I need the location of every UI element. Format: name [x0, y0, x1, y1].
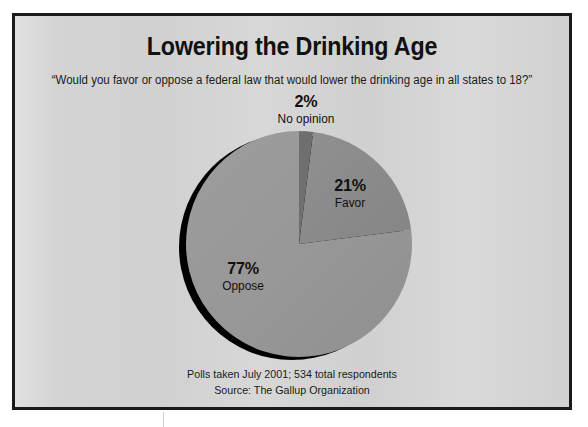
pie-chart: 2% No opinion 21% Favor 77% Oppose	[15, 16, 569, 407]
slice-label-oppose: 77% Oppose	[185, 259, 301, 294]
slice-name-no-opinion: No opinion	[237, 112, 376, 127]
slice-pct-oppose: 77%	[188, 259, 298, 279]
slice-label-favor: 21% Favor	[292, 176, 408, 211]
footnote-line-source: Source: The Gallup Organization	[34, 383, 549, 399]
slice-pct-no-opinion: 2%	[237, 92, 376, 112]
page-margin-rule	[163, 412, 164, 427]
slice-name-oppose: Oppose	[188, 279, 298, 294]
slice-name-favor: Favor	[295, 196, 405, 211]
chart-footnote: Polls taken July 2001; 534 total respond…	[34, 367, 549, 399]
pie-chart-svg	[15, 16, 569, 407]
footnote-line-poll: Polls taken July 2001; 534 total respond…	[34, 367, 549, 383]
figure-page: Lowering the Drinking Age “Would you fav…	[0, 0, 588, 427]
slice-label-no-opinion: 2% No opinion	[233, 92, 379, 127]
chart-card: Lowering the Drinking Age “Would you fav…	[12, 13, 572, 410]
slice-pct-favor: 21%	[295, 176, 405, 196]
